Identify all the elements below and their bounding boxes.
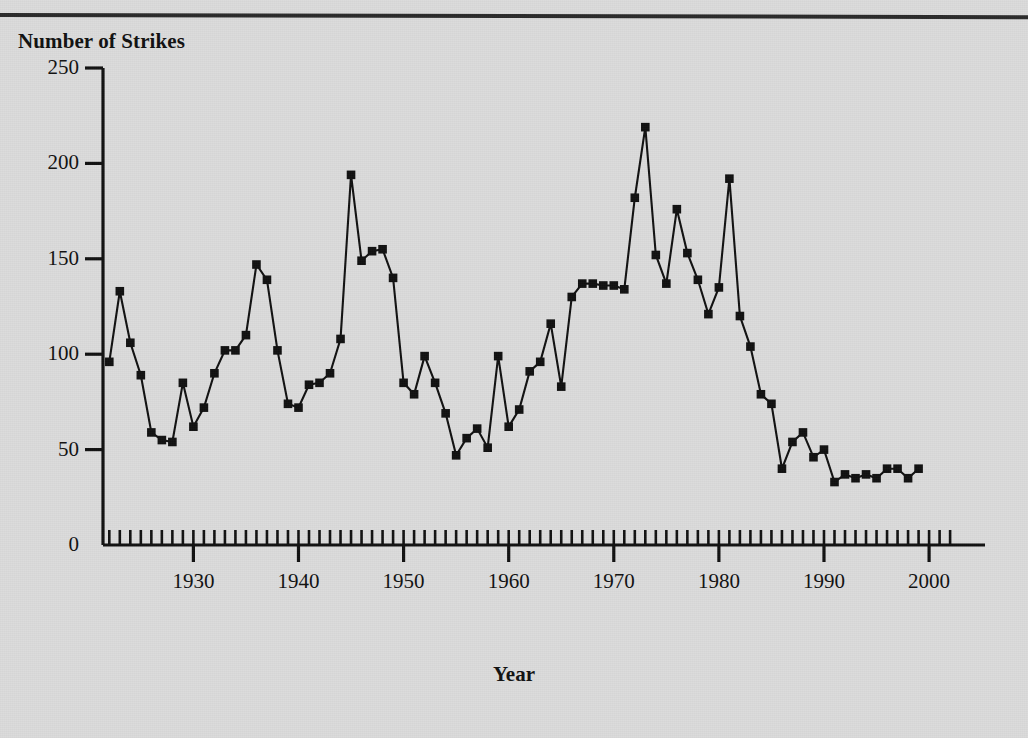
data-point-marker [567,293,576,302]
data-point-marker [242,331,251,340]
data-point-marker [914,464,923,473]
data-point-marker [294,403,303,412]
data-point-marker [557,382,566,391]
data-point-marker [778,464,787,473]
data-point-marker [147,428,156,437]
data-point-marker [546,319,555,328]
data-point-marker [326,369,335,378]
data-point-marker [525,367,534,376]
data-point-marker [494,352,503,361]
data-point-marker [347,171,356,180]
data-point-marker [441,409,450,418]
data-point-marker [725,174,734,183]
data-point-marker [263,275,272,284]
data-point-marker [588,279,597,288]
data-point-marker [893,464,902,473]
data-point-marker [799,428,808,437]
data-point-marker [452,451,461,460]
data-point-marker [305,380,314,389]
data-point-marker [673,205,682,214]
data-point-marker [357,256,366,265]
data-point-marker [578,279,587,288]
data-point-marker [336,335,345,344]
data-point-marker [641,123,650,132]
data-point-marker [872,474,881,483]
data-point-marker [851,474,860,483]
data-point-marker [210,369,219,378]
data-point-marker [820,445,829,454]
data-point-marker [158,436,167,445]
data-point-marker [126,338,135,347]
chart-plot-area [0,0,1028,738]
data-point-marker [231,346,240,355]
data-point-marker [862,470,871,479]
data-point-marker [652,251,661,260]
data-point-marker [462,434,471,443]
data-point-marker [704,310,713,319]
data-point-marker [389,274,398,283]
data-point-marker [273,346,282,355]
data-point-marker [788,438,797,447]
data-point-marker [137,371,146,380]
data-point-marker [431,379,440,388]
data-point-marker [515,405,524,414]
data-point-marker [483,443,492,452]
data-point-marker [105,358,114,367]
data-point-marker [189,422,198,431]
data-point-marker [420,352,429,361]
data-point-marker [399,379,408,388]
data-point-marker [116,287,125,296]
data-point-marker [662,279,671,288]
data-point-marker [168,438,177,447]
data-point-marker [315,379,324,388]
data-point-marker [841,470,850,479]
data-point-marker [767,400,776,409]
data-point-marker [883,464,892,473]
data-point-marker [368,247,377,256]
data-point-marker [631,193,640,202]
data-point-marker [904,474,913,483]
data-point-marker [284,400,293,409]
data-series-line [109,127,918,482]
data-point-marker [599,281,608,290]
data-point-marker [694,275,703,284]
data-point-marker [830,478,839,487]
data-point-marker [683,249,692,258]
data-point-marker [715,283,724,292]
data-point-marker [746,342,755,351]
data-point-marker [179,379,188,388]
data-point-marker [221,346,230,355]
data-point-marker [620,285,629,294]
data-point-marker [757,390,766,399]
data-point-marker [504,422,513,431]
data-point-marker [410,390,419,399]
data-point-marker [200,403,209,412]
data-point-marker [809,453,818,462]
data-point-marker [536,358,545,367]
data-point-marker [609,281,618,290]
data-point-marker [378,245,387,254]
data-point-marker [736,312,745,321]
data-point-marker [473,424,482,433]
data-point-marker [252,260,261,269]
